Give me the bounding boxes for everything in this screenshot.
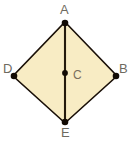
vertex-label-d: D xyxy=(3,62,12,75)
geometry-figure: A B E D C xyxy=(0,0,129,141)
rhombus-diagram-svg xyxy=(0,0,129,141)
vertex-label-e: E xyxy=(61,126,70,139)
vertex-label-a: A xyxy=(60,3,69,16)
center-point-c xyxy=(62,70,68,76)
center-label-c: C xyxy=(73,69,82,81)
vertex-label-b: B xyxy=(119,62,128,75)
vertex-point-a xyxy=(62,20,69,27)
